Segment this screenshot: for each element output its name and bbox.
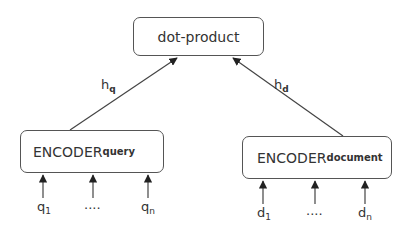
edge-label-hq-sub: q: [109, 84, 115, 94]
edge-label-hd-sub: d: [282, 84, 288, 94]
input-d-ellipsis: ....: [306, 203, 323, 218]
document-encoder-label: ENCODER: [257, 150, 326, 166]
edge-label-hd: hd: [274, 77, 289, 94]
document-encoder-subscript: document: [326, 152, 382, 163]
input-q-ellipsis-text: ....: [84, 197, 101, 212]
input-d-ellipsis-text: ....: [306, 203, 323, 218]
edge-hq-arrow: [70, 58, 177, 130]
query-encoder-subscript: query: [102, 146, 135, 157]
input-q-ellipsis: ....: [84, 197, 101, 212]
dot-product-node: dot-product: [133, 17, 264, 56]
input-d1-sub: 1: [265, 212, 271, 222]
dot-product-label: dot-product: [158, 29, 240, 45]
query-encoder-label: ENCODER: [33, 144, 102, 160]
edge-hd-arrow: [233, 58, 343, 136]
input-q1-sub: 1: [45, 206, 51, 216]
edge-label-hd-base: h: [274, 77, 282, 92]
input-q1: q1: [37, 199, 51, 216]
edge-label-hq: hq: [101, 77, 116, 94]
input-dn-sub: n: [366, 212, 372, 222]
document-encoder-node: ENCODERdocument: [242, 136, 392, 179]
input-dn: dn: [358, 205, 372, 222]
input-qn-sub: n: [149, 206, 155, 216]
input-qn: qn: [141, 199, 155, 216]
edge-label-hq-base: h: [101, 77, 109, 92]
input-d1: d1: [257, 205, 271, 222]
query-encoder-node: ENCODERquery: [20, 130, 164, 173]
